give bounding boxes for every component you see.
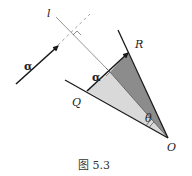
label-Q: Q: [72, 96, 81, 109]
figure-caption: 图 5.3: [78, 159, 110, 172]
label-alpha-free: α: [24, 60, 33, 73]
label-theta: θ: [145, 112, 152, 125]
label-alpha-segment: α: [92, 71, 101, 84]
vector-alpha-free: [16, 46, 58, 84]
figure-5-3-diagram: l α α R Q O θ 图 5.3: [0, 0, 192, 176]
label-l: l: [47, 7, 51, 20]
line-l: [56, 17, 110, 72]
dashed-line: [58, 14, 90, 45]
label-O: O: [167, 141, 176, 154]
label-R: R: [134, 38, 143, 51]
right-angle-mark-top: [73, 31, 81, 35]
